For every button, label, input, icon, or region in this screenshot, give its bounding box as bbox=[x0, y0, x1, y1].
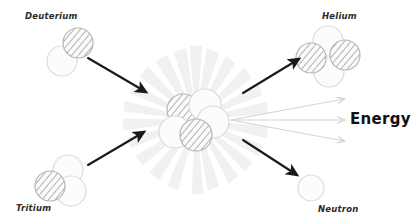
tritium-nucleon-proton bbox=[35, 171, 65, 201]
label-tritium: Tritium bbox=[16, 203, 51, 213]
helium-nucleon-proton bbox=[296, 43, 326, 73]
tritium-nucleus bbox=[35, 155, 86, 206]
label-neutron: Neutron bbox=[318, 204, 358, 214]
label-deuterium: Deuterium bbox=[25, 11, 78, 21]
label-energy: Energy bbox=[350, 110, 411, 128]
helium-nucleon-proton bbox=[330, 40, 360, 70]
fusion-diagram: Deuterium Helium Tritium Neutron Energy bbox=[0, 0, 416, 224]
neutron-nucleon-neutron bbox=[298, 175, 324, 201]
core-to-helium-arrow bbox=[243, 59, 299, 93]
free-neutron bbox=[298, 175, 324, 201]
core-nucleon-proton bbox=[180, 119, 212, 151]
helium-nucleus bbox=[296, 26, 360, 87]
deuterium-nucleon-proton bbox=[63, 28, 93, 58]
energy-arrow-group bbox=[231, 99, 344, 141]
label-helium: Helium bbox=[322, 11, 357, 21]
core-to-neutron-arrow bbox=[243, 140, 297, 175]
deuterium-to-core-arrow bbox=[88, 58, 146, 92]
tritium-to-core-arrow bbox=[88, 132, 144, 165]
deuterium-nucleus bbox=[47, 28, 93, 76]
